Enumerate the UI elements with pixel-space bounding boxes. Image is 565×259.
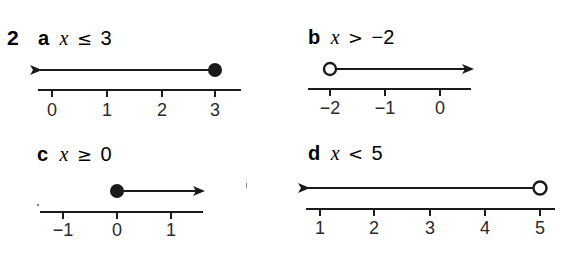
open-endpoint-icon xyxy=(324,63,336,75)
part-letter: d xyxy=(308,142,320,164)
part-c: c x ≥ 0 −1 0 1 xyxy=(37,143,247,240)
tick-label: 1 xyxy=(166,220,176,240)
axis-ticks xyxy=(330,89,440,96)
relation-symbol: > xyxy=(348,27,363,48)
axis-ticks xyxy=(320,209,540,216)
scan-speck xyxy=(37,204,39,206)
part-c-heading: c x ≥ 0 xyxy=(37,143,112,165)
tick-label: 1 xyxy=(102,100,112,120)
part-letter: c xyxy=(37,143,48,165)
part-b: b x > −2 −2 −1 0 xyxy=(308,26,472,118)
part-a-heading: a x ≤ 3 xyxy=(38,27,112,49)
bound-value: 0 xyxy=(100,143,111,165)
relation-symbol: < xyxy=(348,143,363,164)
tick-label: 0 xyxy=(112,220,122,240)
axis-ticks xyxy=(63,212,171,219)
tick-label: 3 xyxy=(210,100,220,120)
closed-endpoint-icon xyxy=(110,184,124,198)
tick-label: 5 xyxy=(535,218,545,238)
relation-symbol: ≤ xyxy=(77,28,92,49)
tick-label: −2 xyxy=(320,98,341,118)
tick-label: 2 xyxy=(369,218,379,238)
part-d: d x < 5 1 2 3 4 5 xyxy=(306,142,555,238)
tick-label: 0 xyxy=(435,98,445,118)
open-endpoint-icon xyxy=(534,182,547,195)
part-b-heading: b x > −2 xyxy=(308,26,394,48)
part-a: a x ≤ 3 0 1 2 3 xyxy=(38,27,241,120)
part-letter: a xyxy=(38,27,50,49)
number-line-exercise: 2 a x ≤ 3 0 1 2 3 b x > −2 xyxy=(0,0,565,259)
variable: x xyxy=(330,142,340,164)
bound-value: 3 xyxy=(100,27,111,49)
tick-label: 3 xyxy=(425,218,435,238)
axis-ticks xyxy=(52,90,215,97)
tick-label: −1 xyxy=(53,220,74,240)
tick-label: 1 xyxy=(315,218,325,238)
relation-symbol: ≥ xyxy=(77,144,92,165)
part-letter: b xyxy=(308,26,320,48)
tick-label: 4 xyxy=(480,218,490,238)
variable: x xyxy=(330,26,340,48)
tick-label: 0 xyxy=(47,100,57,120)
variable: x xyxy=(59,143,69,165)
tick-label: 2 xyxy=(157,100,167,120)
part-d-heading: d x < 5 xyxy=(308,142,383,164)
bound-value: 5 xyxy=(372,142,383,164)
scan-speck xyxy=(246,183,247,188)
bound-value: −2 xyxy=(372,26,395,48)
tick-label: −1 xyxy=(375,98,396,118)
variable: x xyxy=(59,27,69,49)
question-number: 2 xyxy=(7,26,19,49)
closed-endpoint-icon xyxy=(208,63,222,77)
